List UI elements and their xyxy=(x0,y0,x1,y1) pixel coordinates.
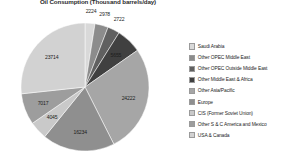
legend-item[interactable]: Other OPEC Outside Middle East xyxy=(189,63,282,74)
slice-value-label: 16234 xyxy=(73,129,86,135)
legend-label: Other S & C America and Mexico xyxy=(198,122,267,127)
legend-item[interactable]: CIS (Former Soviet Union) xyxy=(189,108,282,119)
legend-swatch-icon xyxy=(189,99,195,105)
legend-label: CIS (Former Soviet Union) xyxy=(198,111,253,116)
legend-item[interactable]: Other OPEC Middle East xyxy=(189,52,282,63)
plot-area: 222429782722565524222162344045701723714 xyxy=(0,0,186,158)
legend-swatch-icon xyxy=(189,66,195,72)
legend-item[interactable]: Other Asia/Pacific xyxy=(189,85,282,96)
slice-value-label: 2978 xyxy=(99,11,110,17)
chart-legend: Saudi ArabiaOther OPEC Middle EastOther … xyxy=(189,41,282,141)
legend-swatch-icon xyxy=(189,55,195,61)
legend-item[interactable]: Europe xyxy=(189,96,282,107)
legend-label: USA & Canada xyxy=(198,133,230,138)
slice-value-label: 2722 xyxy=(114,16,125,22)
legend-item[interactable]: Other S & C America and Mexico xyxy=(189,119,282,130)
legend-label: Other OPEC Outside Middle East xyxy=(198,66,268,71)
legend-swatch-icon xyxy=(189,132,195,138)
slice-value-label: 5655 xyxy=(111,52,122,58)
legend-swatch-icon xyxy=(189,110,195,116)
legend-label: Saudi Arabia xyxy=(198,44,225,49)
legend-label: Other Asia/Pacific xyxy=(198,88,235,93)
legend-swatch-icon xyxy=(189,43,195,49)
legend-label: Other Middle East & Africa xyxy=(198,77,253,82)
legend-swatch-icon xyxy=(189,88,195,94)
legend-item[interactable]: Other Middle East & Africa xyxy=(189,74,282,85)
legend-swatch-icon xyxy=(189,121,195,127)
legend-label: Europe xyxy=(198,100,213,105)
legend-swatch-icon xyxy=(189,77,195,83)
slice-value-label: 7017 xyxy=(38,100,49,106)
slice-value-label: 24222 xyxy=(122,95,135,101)
slice-value-label: 23714 xyxy=(45,54,58,60)
slice-value-label: 2224 xyxy=(86,8,97,14)
slice-value-label: 4045 xyxy=(47,114,58,120)
legend-label: Other OPEC Middle East xyxy=(198,55,250,60)
legend-item[interactable]: Saudi Arabia xyxy=(189,41,282,52)
legend-item[interactable]: USA & Canada xyxy=(189,130,282,141)
